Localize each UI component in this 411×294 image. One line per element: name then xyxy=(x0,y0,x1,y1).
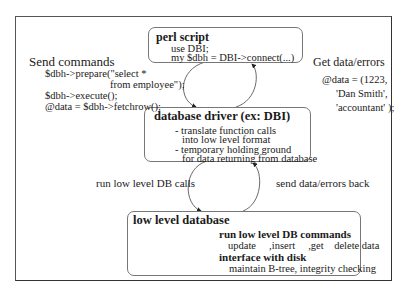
get-data-line: 'Dan Smith', xyxy=(336,88,388,99)
db-section2-title: interface with disk xyxy=(219,252,306,263)
database-driver-box: database driver (ex: DBI) - translate fu… xyxy=(144,107,311,162)
get-data-title: Get data/errors xyxy=(313,55,385,70)
get-data-line: 'accountant' ); xyxy=(336,102,394,113)
low-level-database-title: low level database xyxy=(133,213,230,228)
get-data-line: @data = (1223, xyxy=(322,74,387,85)
perl-script-box: perl script use DBI; my $dbh = DBI->conn… xyxy=(148,27,303,63)
arrow-up-upper xyxy=(236,64,256,107)
arrow-up-lower xyxy=(243,163,260,211)
db-section2-line: maintain B-tree, integrity checking xyxy=(229,263,376,274)
low-level-database-box: low level database run low level DB comm… xyxy=(127,211,361,276)
db-section1-line: update ,insert ,get delete data xyxy=(228,240,379,251)
driver-line: for data returning from database xyxy=(182,153,317,164)
run-low-level-calls-label: run low level DB calls xyxy=(96,178,195,189)
send-commands-line: $dbh->execute(); xyxy=(45,90,117,101)
database-driver-title: database driver (ex: DBI) xyxy=(154,109,290,124)
perl-script-line: my $dbh = DBI->connect(...) xyxy=(171,52,294,63)
send-commands-line: $dbh->prepare("select * xyxy=(45,68,146,79)
send-commands-line: @data = $dbh->fetchrow(); xyxy=(45,101,161,112)
send-commands-line: from employee"); xyxy=(110,79,185,90)
send-data-back-label: send data/errors back xyxy=(276,178,369,189)
db-section1-title: run low level DB commands xyxy=(219,229,351,240)
arrow-down-upper xyxy=(183,62,205,107)
